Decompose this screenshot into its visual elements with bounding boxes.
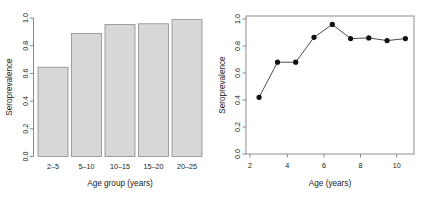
bar-rect — [105, 25, 135, 157]
bar-chart-panel: 1.0 0.8 0.6 0.4 0.2 0.0 2–5 5–10 10–15 — [0, 0, 215, 197]
line-chart-svg: 1.0 0.8 0.6 0.4 0.2 0.0 2 4 6 8 10 — [215, 0, 430, 197]
data-point — [311, 35, 316, 40]
series-line — [259, 24, 405, 97]
x-tick-label: 20–25 — [177, 162, 197, 171]
y-tick-label: 0.4 — [233, 95, 242, 105]
bar-chart-x-ticklabels: 2–5 5–10 10–15 15–20 20–25 — [47, 162, 197, 171]
data-point — [257, 95, 262, 100]
y-tick-label: 0.2 — [233, 122, 242, 132]
line-chart-y-axis — [243, 19, 247, 154]
figure-canvas: 1.0 0.8 0.6 0.4 0.2 0.0 2–5 5–10 10–15 — [0, 0, 430, 197]
line-chart-xlabel: Age (years) — [309, 179, 352, 188]
x-tick-label: 15–20 — [144, 162, 164, 171]
line-chart-panel: 1.0 0.8 0.6 0.4 0.2 0.0 2 4 6 8 10 — [215, 0, 430, 197]
data-point — [275, 60, 280, 65]
bar-chart-xlabel: Age group (years) — [87, 179, 153, 188]
y-tick-label: 0.4 — [21, 96, 30, 106]
bar-series — [38, 20, 202, 157]
line-chart-x-axis — [250, 154, 397, 158]
x-tick-label: 5–10 — [79, 162, 95, 171]
data-point — [348, 36, 353, 41]
line-chart-frame — [246, 16, 414, 154]
y-tick-label: 1.0 — [21, 13, 30, 23]
y-tick-label: 0.8 — [21, 41, 30, 51]
bar-rect — [172, 20, 202, 157]
bar-chart-y-ticklabels: 1.0 0.8 0.6 0.4 0.2 0.0 — [21, 13, 30, 162]
x-tick-label: 4 — [285, 161, 289, 170]
data-point — [330, 22, 335, 27]
x-tick-label: 8 — [359, 161, 363, 170]
data-point — [293, 60, 298, 65]
y-tick-label: 1.0 — [233, 14, 242, 24]
y-tick-label: 0.6 — [21, 68, 30, 78]
bar-chart-y-axis — [30, 18, 34, 157]
y-tick-label: 0.0 — [233, 149, 242, 159]
y-tick-label: 0.6 — [233, 68, 242, 78]
bar-rect — [139, 24, 169, 157]
bar-chart-ylabel: Seroprevalence — [5, 58, 14, 116]
x-tick-label: 6 — [322, 161, 326, 170]
line-chart-x-ticklabels: 2 4 6 8 10 — [248, 161, 401, 170]
line-chart-y-ticklabels: 1.0 0.8 0.6 0.4 0.2 0.0 — [233, 14, 242, 159]
data-point — [403, 36, 408, 41]
series-markers — [257, 22, 409, 100]
data-point — [366, 35, 371, 40]
x-tick-label: 10 — [393, 161, 401, 170]
bar-chart-svg: 1.0 0.8 0.6 0.4 0.2 0.0 2–5 5–10 10–15 — [0, 0, 215, 197]
data-point — [385, 38, 390, 43]
x-tick-label: 2–5 — [47, 162, 59, 171]
bar-rect — [72, 33, 102, 156]
y-tick-label: 0.8 — [233, 41, 242, 51]
bar-rect — [38, 67, 68, 156]
x-tick-label: 2 — [248, 161, 252, 170]
y-tick-label: 0.0 — [21, 152, 30, 162]
y-tick-label: 0.2 — [21, 124, 30, 134]
line-chart-ylabel: Seroprevalence — [218, 56, 227, 114]
x-tick-label: 10–15 — [110, 162, 130, 171]
